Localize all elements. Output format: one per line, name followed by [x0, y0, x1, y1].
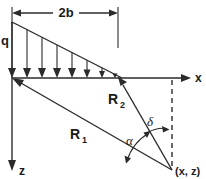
z-axis-label: z: [19, 164, 25, 178]
z-axis-arrowhead-icon: [8, 160, 16, 171]
load-intensity-label-q: q: [1, 33, 9, 48]
field-point-label: (x, z): [175, 165, 200, 177]
radius-r2-group: R 2: [108, 77, 172, 170]
radius-r1-subscript: 1: [82, 135, 87, 145]
angle-delta-arrowhead-icon: [162, 126, 170, 133]
triangular-load-group: q: [1, 22, 122, 78]
angle-alpha-arrowhead-start-icon: [125, 156, 132, 164]
x-axis-label: x: [195, 71, 202, 85]
angle-delta-label: δ: [147, 114, 154, 129]
x-axis-arrowhead-icon: [181, 74, 191, 82]
load-arrow: [53, 45, 61, 78]
load-arrow: [8, 22, 16, 78]
radius-r1-label: R: [70, 126, 80, 142]
dimension-left-arrowhead-icon: [12, 10, 21, 17]
angle-alpha-group: α: [125, 131, 151, 164]
dimension-right-arrowhead-icon: [109, 10, 118, 17]
angle-delta-group: δ: [147, 114, 170, 133]
triangular-load-diagram: 2b: [0, 0, 206, 179]
radius-r1-arrowhead-icon: [12, 78, 24, 87]
angle-alpha-label: α: [126, 133, 134, 148]
radius-r2-subscript: 2: [120, 100, 125, 110]
load-arrow: [23, 30, 31, 78]
load-arrow: [84, 60, 91, 78]
dimension-label-2b: 2b: [58, 5, 73, 20]
load-arrow: [68, 53, 76, 79]
z-axis-group: z: [8, 78, 25, 178]
load-arrow: [38, 37, 46, 78]
radius-r2-label: R: [108, 91, 118, 107]
dimension-2b-group: 2b: [12, 5, 118, 48]
diagram-canvas: 2b: [0, 0, 206, 179]
